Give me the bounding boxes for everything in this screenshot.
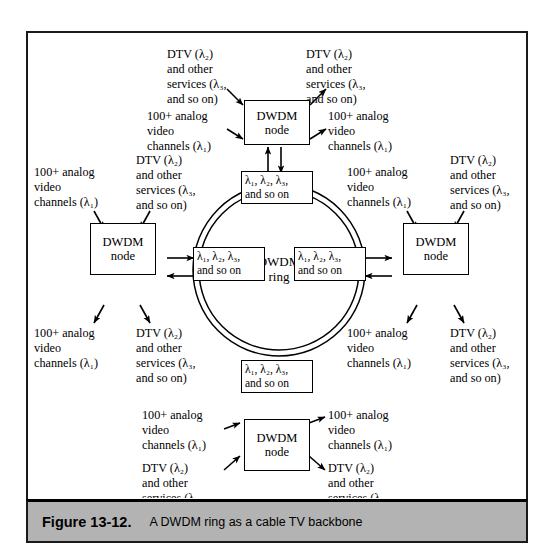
dwdm-node-right[interactable]: DWDM node (403, 223, 469, 275)
dtv-line1: DTV (λ₂) (450, 326, 510, 341)
label-bottom-right-analog: 100+ analog video channels (λ₁) (328, 408, 392, 453)
analog-line3: channels (λ₁) (142, 438, 206, 453)
figure-number: Figure 13-12. (42, 514, 131, 530)
lambda-line2: and so on (298, 264, 342, 278)
analog-line2: video (34, 341, 98, 356)
analog-line1: 100+ analog (142, 408, 206, 423)
node-label-line1: DWDM (257, 109, 298, 123)
lambda-line1: λ₁, λ₂, λ₃, (245, 174, 288, 188)
dtv-line3: services (λ₃, (450, 183, 510, 198)
node-label-line1: DWDM (416, 235, 457, 249)
lambda-box-top[interactable]: λ₁, λ₂, λ₃, and so on (241, 171, 313, 204)
analog-line3: channels (λ₁) (328, 438, 392, 453)
label-left-in-dtv: DTV (λ₂) and other services (λ₃, and so … (136, 153, 196, 213)
dwdm-node-left[interactable]: DWDM node (90, 223, 156, 275)
dwdm-node-top[interactable]: DWDM node (244, 100, 310, 145)
label-right-in-analog: 100+ analog video channels (λ₁) (347, 165, 411, 210)
dtv-line2: and other (450, 341, 510, 356)
analog-line2: video (34, 180, 98, 195)
node-label-line2: node (424, 249, 448, 263)
dtv-line2: and other (136, 168, 196, 183)
analog-line1: 100+ analog (347, 165, 411, 180)
figure-frame: DWDM ring DWDM node λ₁, λ₂, λ₃, and so o… (26, 31, 528, 543)
node-label-line1: DWDM (103, 235, 144, 249)
dtv-line3: services (λ₃, (328, 491, 388, 498)
dtv-line2: and other (328, 476, 388, 491)
analog-line2: video (328, 124, 392, 139)
analog-line3: channels (λ₁) (347, 195, 411, 210)
diagram-area: DWDM ring DWDM node λ₁, λ₂, λ₃, and so o… (28, 33, 526, 498)
label-bottom-left-analog: 100+ analog video channels (λ₁) (142, 408, 206, 453)
analog-line1: 100+ analog (147, 109, 211, 124)
dwdm-node-bottom[interactable]: DWDM node (244, 419, 310, 471)
analog-line2: video (147, 124, 211, 139)
figure-title: A DWDM ring as a cable TV backbone (149, 515, 362, 529)
label-left-out-analog: 100+ analog video channels (λ₁) (34, 326, 98, 371)
dtv-line3: services (λ₃, (306, 77, 366, 92)
dtv-line3: services (λ₃, (167, 77, 227, 92)
dtv-line4: and so on) (136, 198, 196, 213)
node-label-line2: node (265, 445, 289, 459)
dtv-line1: DTV (λ₂) (450, 153, 510, 168)
analog-line3: channels (λ₁) (328, 139, 392, 154)
node-label-line1: DWDM (257, 431, 298, 445)
figure-caption-bar: Figure 13-12. A DWDM ring as a cable TV … (26, 499, 528, 543)
dtv-line1: DTV (λ₂) (167, 47, 227, 62)
dtv-line1: DTV (λ₂) (306, 47, 366, 62)
label-right-in-dtv: DTV (λ₂) and other services (λ₃, and so … (450, 153, 510, 213)
dtv-line3: services (λ₃, (136, 183, 196, 198)
analog-line3: channels (λ₁) (34, 195, 98, 210)
label-bottom-left-dtv: DTV (λ₂) and other services (λ₃, and so … (142, 461, 202, 498)
node-label-line2: node (265, 123, 289, 137)
analog-line1: 100+ analog (34, 165, 98, 180)
label-right-out-analog: 100+ analog video channels (λ₁) (347, 326, 411, 371)
lambda-box-left[interactable]: λ₁, λ₂, λ₃, and so on (193, 247, 265, 281)
lambda-line2: and so on (245, 188, 289, 202)
link-left-node-to-lambda (167, 258, 194, 276)
lambda-line1: λ₁, λ₂, λ₃, (245, 363, 288, 377)
dtv-line2: and other (136, 341, 196, 356)
link-right-node-to-lambda (365, 258, 392, 276)
analog-line2: video (142, 423, 206, 438)
dtv-line4: and so on) (450, 371, 510, 386)
lambda-box-right[interactable]: λ₁, λ₂, λ₃, and so on (294, 247, 366, 281)
analog-line1: 100+ analog (328, 109, 392, 124)
label-top-left-dtv: DTV (λ₂) and other services (λ₃, and so … (167, 47, 227, 107)
lambda-box-bottom[interactable]: λ₁, λ₂, λ₃, and so on (241, 360, 313, 393)
label-top-right-analog: 100+ analog video channels (λ₁) (328, 109, 392, 154)
lambda-line2: and so on (245, 377, 289, 391)
dtv-line2: and other (450, 168, 510, 183)
label-left-in-analog: 100+ analog video channels (λ₁) (34, 165, 98, 210)
analog-line2: video (328, 423, 392, 438)
dtv-line2: and other (167, 62, 227, 77)
dtv-line4: and so on) (450, 198, 510, 213)
link-top-node-to-lambda (268, 147, 281, 173)
node-label-line2: node (111, 249, 135, 263)
analog-line1: 100+ analog (328, 408, 392, 423)
dtv-line1: DTV (λ₂) (136, 153, 196, 168)
dtv-line3: services (λ₃, (142, 491, 202, 498)
dtv-line4: and so on) (167, 92, 227, 107)
analog-line1: 100+ analog (347, 326, 411, 341)
dtv-line1: DTV (λ₂) (328, 461, 388, 476)
analog-line1: 100+ analog (34, 326, 98, 341)
analog-line2: video (347, 180, 411, 195)
analog-line3: channels (λ₁) (34, 356, 98, 371)
label-top-right-dtv: DTV (λ₂) and other services (λ₃, and so … (306, 47, 366, 107)
lambda-line2: and so on (197, 264, 241, 278)
dtv-line1: DTV (λ₂) (142, 461, 202, 476)
dtv-line2: and other (142, 476, 202, 491)
dtv-line4: and so on) (136, 371, 196, 386)
label-top-left-analog: 100+ analog video channels (λ₁) (147, 109, 211, 154)
dtv-line1: DTV (λ₂) (136, 326, 196, 341)
dtv-line3: services (λ₃, (450, 356, 510, 371)
dtv-line4: and so on) (306, 92, 366, 107)
lambda-line1: λ₁, λ₂, λ₃, (197, 250, 240, 264)
dtv-line3: services (λ₃, (136, 356, 196, 371)
analog-line2: video (347, 341, 411, 356)
dtv-line2: and other (306, 62, 366, 77)
ring-label-line2: ring (269, 269, 290, 284)
label-left-out-dtv: DTV (λ₂) and other services (λ₃, and so … (136, 326, 196, 386)
label-right-out-dtv: DTV (λ₂) and other services (λ₃, and so … (450, 326, 510, 386)
analog-line3: channels (λ₁) (347, 356, 411, 371)
